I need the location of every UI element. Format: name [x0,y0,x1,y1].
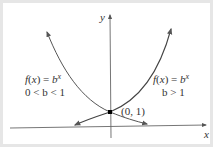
growth-condition-label: b > 1 [162,86,185,98]
y-axis [110,15,111,138]
growth-exponent: x [185,72,190,81]
y-axis-label: y [99,11,105,23]
decay-condition-label: 0 < b < 1 [25,86,65,98]
decay-curve-label: f(x) = bx [25,72,62,86]
x-axis-label: x [203,128,209,140]
x-axis [10,125,206,128]
growth-curve-label: f(x) = bx [153,72,190,86]
intercept-label: (0, 1) [121,105,145,118]
decay-exponent: x [57,72,62,81]
intercept-point-marker [108,110,112,114]
exponential-graph: y x f(x) = bx 0 < b < 1 f(x) = bx b > 1 … [0,0,213,147]
